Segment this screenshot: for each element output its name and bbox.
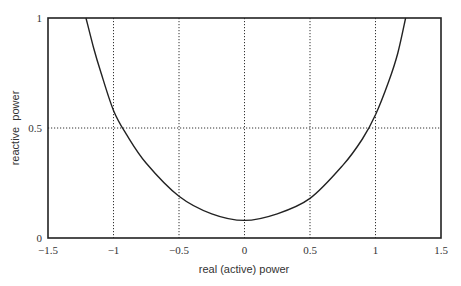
y-tick-label: 0 bbox=[37, 232, 43, 244]
x-tick-label: −0.5 bbox=[169, 244, 189, 256]
y-tick-label: 1 bbox=[37, 12, 43, 24]
y-tick-label: 0.5 bbox=[28, 122, 42, 134]
x-tick-label: 0 bbox=[242, 244, 248, 256]
x-tick-label: −1.5 bbox=[38, 244, 58, 256]
x-tick-label: 1 bbox=[373, 244, 379, 256]
y-axis-ticks: 00.51 bbox=[28, 12, 42, 244]
grid-lines bbox=[48, 18, 441, 238]
curve-line bbox=[86, 18, 406, 220]
x-tick-label: 0.5 bbox=[303, 244, 317, 256]
x-tick-label: 1.5 bbox=[434, 244, 448, 256]
y-axis-label: reactive power bbox=[9, 90, 21, 165]
x-axis-label: real (active) power bbox=[199, 263, 290, 275]
x-tick-label: −1 bbox=[108, 244, 120, 256]
chart: −1.5−1−0.500.511.5 00.51 real (active) p… bbox=[0, 0, 461, 286]
x-axis-ticks: −1.5−1−0.500.511.5 bbox=[38, 244, 448, 256]
